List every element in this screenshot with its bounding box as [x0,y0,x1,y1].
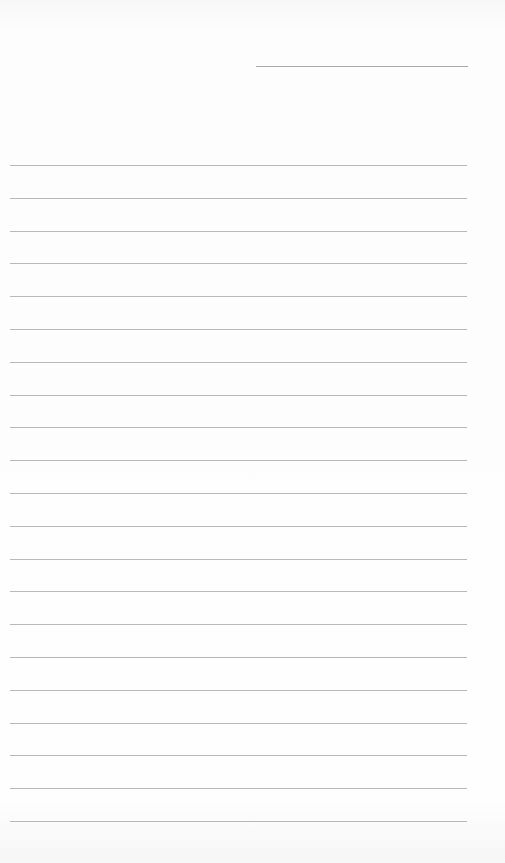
ruled-line-text [10,756,11,757]
ruled-line-text [10,625,11,626]
ruled-line[interactable] [10,362,467,363]
ruled-line[interactable] [10,198,467,199]
ruled-line[interactable] [10,329,467,330]
ruled-lines [0,0,505,863]
ruled-line[interactable] [10,231,467,232]
ruled-line[interactable] [10,591,467,592]
ruled-line-text [10,264,11,265]
ruled-line-text [10,560,11,561]
ruled-line[interactable] [10,559,467,560]
ruled-line-text [10,691,11,692]
ruled-line-text [10,461,11,462]
ruled-line[interactable] [10,263,467,264]
ruled-line[interactable] [10,165,467,166]
ruled-line[interactable] [10,624,467,625]
ruled-line-text [10,789,11,790]
ruled-line[interactable] [10,427,467,428]
ruled-line[interactable] [10,460,467,461]
ruled-line-text [10,297,11,298]
ruled-line-text [10,428,11,429]
ruled-line[interactable] [10,296,467,297]
ruled-line[interactable] [10,657,467,658]
ruled-line-text [10,166,11,167]
ruled-line[interactable] [10,788,467,789]
ruled-line-text [10,330,11,331]
ruled-line-text [10,527,11,528]
ruled-line-text [10,724,11,725]
ruled-line-text [10,396,11,397]
lined-paper-page [0,0,505,863]
ruled-line-text [10,822,11,823]
ruled-line-text [10,199,11,200]
ruled-line[interactable] [10,395,467,396]
ruled-line-text [10,592,11,593]
ruled-line[interactable] [10,690,467,691]
ruled-line[interactable] [10,723,467,724]
ruled-line-text [10,232,11,233]
ruled-line-text [10,363,11,364]
ruled-line-text [10,658,11,659]
ruled-line[interactable] [10,821,467,822]
ruled-line[interactable] [10,526,467,527]
ruled-line-text [10,494,11,495]
ruled-line[interactable] [10,755,467,756]
ruled-line[interactable] [10,493,467,494]
